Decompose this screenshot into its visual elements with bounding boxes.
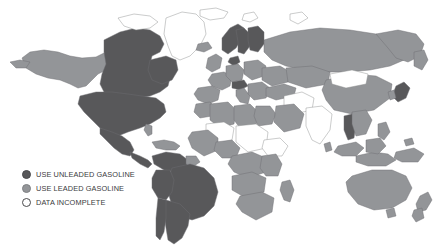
legend-item-incomplete[interactable]: DATA INCOMPLETE bbox=[22, 196, 143, 209]
legend-item-leaded[interactable]: USE LEADED GASOLINE bbox=[22, 182, 143, 195]
legend-swatch-filled-circle-icon bbox=[22, 184, 31, 193]
legend-item-unleaded[interactable]: USE UNLEADED GASOLINE bbox=[22, 168, 143, 181]
legend-label-unleaded: USE UNLEADED GASOLINE bbox=[36, 170, 135, 179]
region-tasmania bbox=[386, 208, 396, 218]
legend: USE UNLEADED GASOLINE USE LEADED GASOLIN… bbox=[22, 168, 143, 210]
legend-label-leaded: USE LEADED GASOLINE bbox=[36, 184, 124, 193]
legend-swatch-filled-circle-icon bbox=[22, 170, 31, 179]
world-map-figure: .dk{fill:#58585a;stroke:#6d6e71;stroke-w… bbox=[0, 0, 439, 247]
legend-swatch-open-circle-icon bbox=[22, 198, 31, 207]
legend-label-incomplete: DATA INCOMPLETE bbox=[36, 198, 105, 207]
